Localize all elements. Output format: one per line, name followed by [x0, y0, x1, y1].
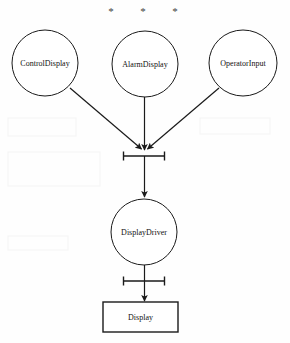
node-display[interactable]: Display: [103, 302, 178, 332]
operator-input-label: OperatorInput: [220, 59, 266, 68]
display-driver-label: DisplayDriver: [121, 228, 167, 237]
alarm-display-label: AlarmDisplay: [122, 60, 167, 69]
asterisk-group: * * *: [108, 5, 178, 17]
flow-diagram: * * *: [0, 0, 290, 343]
node-alarm-display[interactable]: AlarmDisplay: [112, 31, 178, 97]
diagram-canvas: * * *: [0, 0, 290, 343]
asterisk-right-icon: *: [172, 5, 178, 17]
asterisk-left-icon: *: [108, 5, 114, 17]
edge-control-display-to-join-bar: [70, 88, 142, 149]
node-operator-input[interactable]: OperatorInput: [209, 30, 277, 96]
node-control-display[interactable]: ControlDisplay: [12, 30, 78, 96]
node-display-driver[interactable]: DisplayDriver: [111, 199, 177, 265]
asterisk-middle-icon: *: [140, 5, 146, 17]
display-label: Display: [128, 313, 153, 322]
control-display-label: ControlDisplay: [20, 59, 69, 68]
edges-group: [70, 88, 219, 301]
